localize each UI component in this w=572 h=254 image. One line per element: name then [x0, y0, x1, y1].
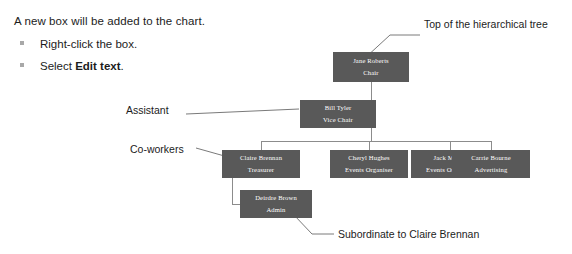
callout-assistant: Assistant: [126, 104, 169, 117]
bullet-text-lead: Select: [40, 60, 75, 72]
org-node-name: Jane Roberts: [353, 57, 389, 65]
list-item: Right-click the box.: [14, 37, 304, 51]
org-node-role: Admin: [266, 206, 285, 214]
bullet-text-select-edit: Select Edit text.: [40, 59, 124, 73]
org-node-role: Events Organiser: [345, 166, 393, 174]
bullet-text-trail: .: [121, 60, 124, 72]
bullet-square-icon: [20, 63, 24, 67]
org-node-treasurer[interactable]: Claire Brennan Treasurer: [222, 150, 300, 178]
org-chart-document-page: A new box will be added to the chart. Ri…: [0, 0, 572, 254]
instructions-block: A new box will be added to the chart. Ri…: [14, 14, 304, 73]
org-node-name: Claire Brennan: [240, 154, 282, 162]
callout-top-of-tree: Top of the hierarchical tree: [424, 18, 548, 31]
org-node-advertising[interactable]: Carrie Bourne Advertising: [452, 150, 530, 178]
org-node-role: Chair: [363, 69, 378, 77]
callout-subordinate: Subordinate to Claire Brennan: [338, 228, 479, 241]
org-node-vice-chair[interactable]: Bill Tyler Vice Chair: [300, 100, 376, 128]
org-node-name: Deirdre Brown: [255, 194, 297, 202]
bullet-text-right-click: Right-click the box.: [40, 37, 137, 51]
org-node-role: Advertising: [475, 166, 508, 174]
org-node-events-organiser-1[interactable]: Cheryl Hughes Events Organiser: [330, 150, 408, 178]
bullet-square-icon: [20, 41, 24, 45]
intro-sentence: A new box will be added to the chart.: [14, 14, 304, 29]
org-node-chair[interactable]: Jane Roberts Chair: [333, 52, 409, 82]
leader-assistant: [186, 109, 299, 114]
org-node-name: Carrie Bourne: [471, 154, 510, 162]
org-node-name: Bill Tyler: [325, 104, 352, 112]
org-node-role: Treasurer: [248, 166, 274, 174]
list-item: Select Edit text.: [14, 59, 304, 73]
menu-item-edit-text: Edit text: [75, 60, 120, 72]
org-node-admin[interactable]: Deirdre Brown Admin: [240, 190, 312, 218]
org-node-name: Cheryl Hughes: [348, 154, 390, 162]
org-node-role: Vice Chair: [323, 116, 353, 124]
callout-co-workers: Co-workers: [130, 143, 184, 156]
